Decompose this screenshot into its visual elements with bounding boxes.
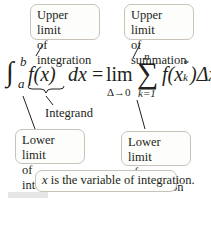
integrand-label: Integrand [45, 106, 93, 121]
dx: dx [68, 63, 87, 86]
lower-limit-integration-label: Lower limit of integration [15, 129, 85, 164]
label-line: Lower limit [22, 133, 78, 163]
integrand: f(x) [28, 63, 56, 86]
summand-f: f(x [162, 63, 183, 85]
upper-bound: b [20, 54, 27, 70]
summand: f(xk*)Δxk [162, 63, 211, 88]
variable-note-text: is the variable of integration. [48, 173, 195, 187]
equals-sign: = [92, 63, 103, 86]
sum-lower: k=1 [138, 87, 156, 99]
integral-sign: ∫ [6, 56, 14, 88]
lower-limit-summation-label: Lower limit of summation [121, 131, 191, 166]
label-line: Lower limit [128, 135, 184, 165]
definite-integral-formula: ∫ b a f(x) dx = lim Δ→0 n ∑ k=1 f(xk*)Δx… [6, 54, 211, 104]
summand-close: ) [190, 63, 197, 85]
summand-sup: * [183, 57, 189, 69]
sigma: ∑ [137, 56, 158, 90]
variable-note: x is the variable of integration. [35, 170, 177, 192]
summand-sub: k [183, 71, 188, 83]
delta-x: Δx [197, 63, 211, 85]
lower-bound: a [18, 76, 25, 92]
lim-subscript: Δ→0 [107, 86, 131, 98]
lim: lim [106, 63, 133, 86]
figure-caption-fragment [8, 192, 48, 198]
